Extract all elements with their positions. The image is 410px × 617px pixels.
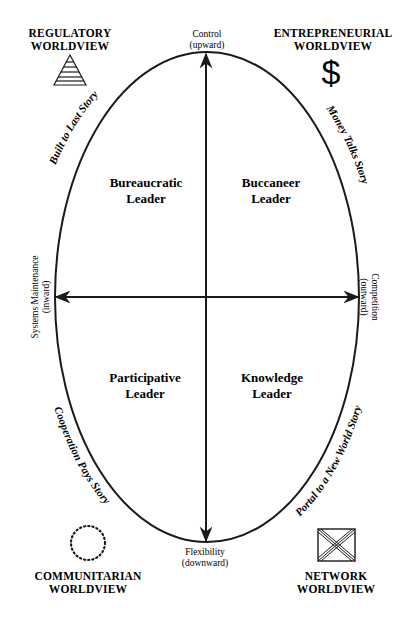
worldview-diagram: Control (upward) Flexibility (downward) … — [0, 0, 410, 617]
quadrant-label-bureaucratic: Bureaucratic — [110, 175, 183, 190]
axis-label-left: Systems Maintenance — [30, 255, 40, 338]
worldview-title-entrepreneurial-sub: WORLDVIEW — [294, 40, 373, 52]
quadrant-label-participative: Participative — [109, 370, 181, 385]
axis-label-right: Competition — [370, 273, 380, 321]
axis-label-bottom: Flexibility — [185, 547, 225, 557]
dollar-icon: $ — [322, 53, 341, 91]
worldview-title-network-sub: WORLDVIEW — [297, 583, 376, 595]
story-label-cooperation-pays: Cooperation Pays Story — [52, 405, 113, 506]
quadrant-label-bureaucratic-sub: Leader — [126, 191, 166, 206]
story-label-money-talks: Money Talks Story — [324, 102, 372, 185]
worldview-title-communitarian-sub: WORLDVIEW — [49, 583, 128, 595]
dotted-circle-icon — [71, 526, 105, 560]
quadrant-label-knowledge-sub: Leader — [252, 386, 292, 401]
axis-label-top: Control — [192, 29, 221, 39]
quadrant-label-knowledge: Knowledge — [241, 370, 303, 385]
worldview-title-entrepreneurial: ENTREPRENEURIAL — [274, 27, 393, 39]
pyramid-icon — [54, 55, 86, 85]
axis-label-bottom-sub: (downward) — [182, 558, 228, 569]
network-box-icon — [318, 529, 355, 561]
worldview-title-regulatory-sub: WORLDVIEW — [31, 40, 110, 52]
worldview-title-regulatory: REGULATORY — [29, 27, 112, 39]
story-label-built-to-last: Built to Last Story — [46, 88, 100, 167]
quadrant-label-buccaneer: Buccaneer — [242, 175, 301, 190]
axis-label-top-sub: (upward) — [190, 40, 225, 51]
axis-label-left-sub: (inward) — [41, 281, 52, 314]
story-label-portal-new-world: Portal to a New World Story — [293, 404, 364, 518]
quadrant-label-participative-sub: Leader — [125, 386, 165, 401]
axis-label-right-sub: (outward) — [358, 278, 369, 315]
worldview-title-communitarian: COMMUNITARIAN — [34, 570, 142, 582]
worldview-title-network: NETWORK — [305, 570, 368, 582]
quadrant-label-buccaneer-sub: Leader — [251, 191, 291, 206]
